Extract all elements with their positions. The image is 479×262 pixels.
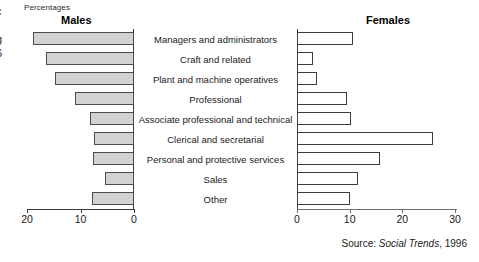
category-label: Personal and protective services: [134, 153, 297, 166]
population-pyramid-chart: c r g 6 Percentages Males Females Manage…: [0, 0, 479, 262]
axis-tick-label: 20: [396, 213, 408, 225]
bar-males: [90, 112, 134, 125]
category-label: Clerical and secretarial: [134, 133, 297, 146]
males-plot-area: [20, 29, 134, 209]
percentages-unit-label: Percentages: [24, 3, 70, 12]
category-label-column: Managers and administratorsCraft and rel…: [134, 29, 297, 209]
edge-artifact-glyph: g: [0, 32, 14, 46]
category-label: Associate professional and technical: [134, 113, 297, 126]
females-value-axis: [297, 209, 457, 210]
bar-females: [297, 192, 350, 205]
bar-males: [55, 72, 134, 85]
axis-tick-label: 10: [75, 213, 87, 225]
page-edge-artifacts: c r g 6: [0, 4, 14, 64]
females-plot-area: [297, 29, 457, 209]
bar-males: [92, 192, 134, 205]
category-label: Craft and related: [134, 53, 297, 66]
bar-males: [94, 132, 134, 145]
bar-females: [297, 52, 313, 65]
category-label: Managers and administrators: [134, 33, 297, 46]
bar-females: [297, 72, 317, 85]
axis-tick-label: 30: [449, 213, 461, 225]
bar-females: [297, 32, 353, 45]
males-value-axis: [27, 209, 134, 210]
source-publication: Social Trends: [379, 238, 439, 249]
males-panel-title: Males: [61, 14, 92, 26]
source-suffix: , 1996: [439, 238, 467, 249]
axis-tick-label: 0: [294, 213, 300, 225]
bar-females: [297, 112, 351, 125]
bar-females: [297, 172, 358, 185]
bar-females: [297, 152, 380, 165]
bar-males: [46, 52, 134, 65]
edge-artifact-glyph: r: [0, 18, 14, 32]
axis-tick-label: 10: [344, 213, 356, 225]
bar-males: [93, 152, 134, 165]
axis-tick-label: 0: [131, 213, 137, 225]
edge-artifact-glyph: c: [0, 4, 14, 18]
source-note: Source: Social Trends, 1996: [342, 238, 467, 249]
category-label: Other: [134, 193, 297, 206]
category-label: Professional: [134, 93, 297, 106]
category-label: Plant and machine operatives: [134, 73, 297, 86]
source-prefix: Source:: [342, 238, 379, 249]
bar-males: [33, 32, 134, 45]
category-label: Sales: [134, 173, 297, 186]
bar-females: [297, 92, 347, 105]
bar-males: [75, 92, 134, 105]
axis-tick-label: 20: [21, 213, 33, 225]
bar-males: [105, 172, 134, 185]
bar-females: [297, 132, 433, 145]
edge-artifact-glyph: 6: [0, 46, 14, 60]
females-panel-title: Females: [366, 14, 410, 26]
